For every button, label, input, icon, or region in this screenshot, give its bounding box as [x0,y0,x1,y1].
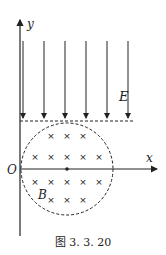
svg-text:×: × [47,195,55,205]
svg-text:×: × [47,131,55,141]
origin-label: O [7,163,17,177]
svg-text:×: × [79,131,87,141]
figure-caption: 图 3. 3. 20 [55,236,111,249]
svg-text:×: × [63,131,71,141]
svg-text:×: × [47,152,55,162]
svg-text:×: × [47,177,55,187]
svg-text:×: × [79,177,87,187]
svg-text:×: × [31,177,39,187]
y-axis-label: y [26,17,34,31]
svg-text:×: × [63,152,71,162]
svg-text:×: × [95,177,103,187]
svg-text:×: × [79,195,87,205]
physics-diagram: y x O E ××× ××××× ××××× ××× B 图 3. 3. 20 [0,0,166,255]
svg-text:×: × [31,152,39,162]
svg-text:×: × [63,177,71,187]
magnetic-field-label: B [37,188,47,202]
svg-text:×: × [63,195,71,205]
svg-text:×: × [95,152,103,162]
x-axis-label: x [146,151,153,165]
electric-field-label: E [118,89,129,104]
electric-field-arrows [23,41,128,118]
circle-center-dot [65,167,69,171]
svg-text:×: × [79,152,87,162]
